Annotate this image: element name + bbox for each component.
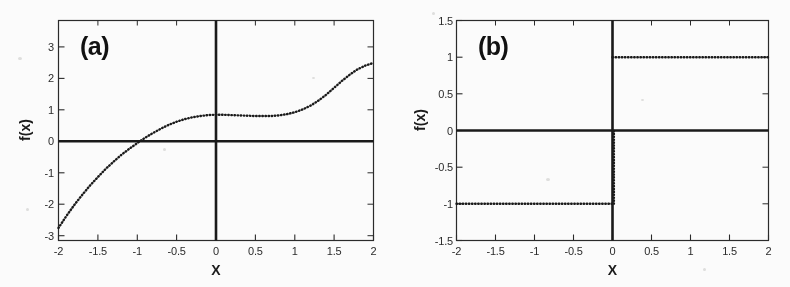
panel-a-xtick-label-neg1: -1 xyxy=(133,245,142,257)
panel-b-xtick-label-neg0p5: -0.5 xyxy=(564,245,582,257)
panel-a-x-axis-title: X xyxy=(211,262,220,278)
scan-speck xyxy=(18,57,22,60)
panel-a-xtick-label-0: 0 xyxy=(213,245,219,257)
panel-a-plot-svg xyxy=(0,0,395,287)
scan-speck xyxy=(432,12,435,15)
panel-a-ytick-label-neg1: -1 xyxy=(34,167,54,179)
panel-a-xtick-label-neg2: -2 xyxy=(54,245,63,257)
panel-b-xtick-label-1: 1 xyxy=(688,245,694,257)
panel-a-xtick-label-0p5: 0.5 xyxy=(248,245,263,257)
panel-b-plot-svg xyxy=(395,0,790,287)
panel-b-ytick-label-1p5: 1.5 xyxy=(427,15,453,27)
panel-b-ytick-label-0p5: 0.5 xyxy=(427,88,453,100)
panel-a-xtick-label-1: 1 xyxy=(292,245,298,257)
panel-b-xtick-label-neg1: -1 xyxy=(530,245,539,257)
figure-container: (a) 3 2 1 0 -1 -2 -3 -2 -1.5 -1 -0.5 0 0… xyxy=(0,0,790,287)
panel-a-xtick-label-neg1p5: -1.5 xyxy=(89,245,107,257)
panel-b-xtick-label-0p5: 0.5 xyxy=(644,245,659,257)
panel-a-ytick-label-0: 0 xyxy=(34,135,54,147)
panel-a-ytick-label-neg3: -3 xyxy=(34,230,54,242)
panel-a-label: (a) xyxy=(80,32,109,61)
panel-a-ytick-label-neg2: -2 xyxy=(34,198,54,210)
scan-speck xyxy=(163,148,166,151)
panel-b-label: (b) xyxy=(478,32,508,61)
panel-b-ytick-label-0: 0 xyxy=(427,125,453,137)
panel-a-xtick-label-1p5: 1.5 xyxy=(327,245,342,257)
panel-a-y-axis-title: f(x) xyxy=(17,110,33,150)
panel-b-xtick-label-0: 0 xyxy=(610,245,616,257)
panel-b-xtick-label-neg2: -2 xyxy=(452,245,461,257)
panel-b-ytick-label-neg1: -1 xyxy=(427,198,453,210)
panel-a-ytick-label-1: 1 xyxy=(34,104,54,116)
panel-a-ytick-label-2: 2 xyxy=(34,72,54,84)
chart-panel-b: (b) 1.5 1 0.5 0 -0.5 -1 -1.5 -2 -1.5 -1 … xyxy=(395,0,790,287)
panel-b-ytick-label-1: 1 xyxy=(427,51,453,63)
panel-b-ytick-label-neg1p5: -1.5 xyxy=(427,235,453,247)
panel-b-xtick-label-2: 2 xyxy=(766,245,772,257)
panel-a-ytick-label-3: 3 xyxy=(34,41,54,53)
panel-b-xtick-label-neg1p5: -1.5 xyxy=(486,245,504,257)
scan-speck xyxy=(703,268,706,271)
panel-b-xtick-label-1p5: 1.5 xyxy=(722,245,737,257)
panel-b-ytick-label-neg0p5: -0.5 xyxy=(427,161,453,173)
scan-speck xyxy=(641,99,644,101)
scan-speck xyxy=(546,178,550,181)
panel-a-xtick-label-neg0p5: -0.5 xyxy=(168,245,186,257)
scan-speck xyxy=(26,208,29,211)
panel-b-y-axis-title: f(x) xyxy=(412,100,428,140)
panel-b-x-axis-title: X xyxy=(608,262,617,278)
chart-panel-a: (a) 3 2 1 0 -1 -2 -3 -2 -1.5 -1 -0.5 0 0… xyxy=(0,0,395,287)
panel-a-xtick-label-2: 2 xyxy=(371,245,377,257)
scan-speck xyxy=(312,77,315,79)
